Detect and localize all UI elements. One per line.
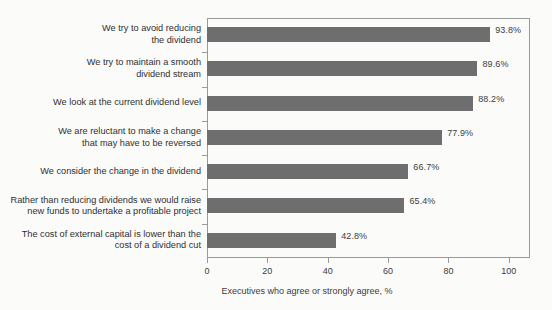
bar-row: 93.8% [0,18,552,52]
x-axis-tick [267,258,268,263]
bar [207,233,336,248]
x-axis-tick-label: 60 [383,266,393,276]
bar [207,130,442,145]
bar [207,164,408,179]
x-axis-tick-label: 0 [204,266,209,276]
bar-value-label: 66.7% [413,162,439,172]
bar-row: 89.6% [0,52,552,86]
bar [207,96,473,111]
bar [207,61,477,76]
x-axis-title: Executives who agree or strongly agree, … [0,286,552,296]
x-axis-tick [207,258,208,263]
bar-row: 77.9% [0,121,552,155]
bar-row: 66.7% [0,155,552,189]
bar-value-label: 93.8% [495,25,521,35]
x-axis-tick [509,258,510,263]
bar [207,27,490,42]
x-axis-tick [448,258,449,263]
x-axis-tick-label: 20 [262,266,272,276]
bar-value-label: 42.8% [341,231,367,241]
x-axis-tick-label: 40 [323,266,333,276]
chart-page: We try to avoid reducing the dividendWe … [0,0,552,310]
bar-row: 88.2% [0,87,552,121]
x-axis-title-text: Executives who agree or strongly agree, … [221,286,392,296]
x-axis-tick [328,258,329,263]
bar-value-label: 77.9% [447,128,473,138]
x-axis-tick-label: 80 [443,266,453,276]
x-axis-tick [388,258,389,263]
bar-row: 65.4% [0,189,552,223]
bar-value-label: 88.2% [478,94,504,104]
bar-value-label: 89.6% [482,59,508,69]
bar [207,198,404,213]
bar-row: 42.8% [0,224,552,258]
x-axis-tick-label: 100 [501,266,516,276]
bar-value-label: 65.4% [409,196,435,206]
